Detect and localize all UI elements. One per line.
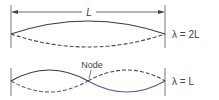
node-pointer bbox=[89, 70, 91, 79]
wavelength-label-top: λ = 2L bbox=[172, 29, 200, 40]
wave-solid-bottom-right bbox=[88, 81, 165, 92]
arrow-left-icon bbox=[11, 10, 18, 14]
bottom-wave-group: Node λ = L bbox=[11, 60, 194, 96]
wave-solid-top bbox=[11, 21, 165, 34]
wave-dashed-top bbox=[11, 34, 165, 47]
wave-dashed-bottom-right bbox=[88, 70, 165, 81]
arrow-right-icon bbox=[158, 10, 165, 14]
wavelength-label-bottom: λ = L bbox=[172, 76, 194, 87]
node-label: Node bbox=[81, 60, 103, 70]
dimension-label: L bbox=[86, 7, 92, 18]
standing-wave-diagram: L λ = 2L Node λ = L bbox=[0, 0, 219, 100]
wave-solid-bottom-left bbox=[11, 70, 88, 81]
wave-dashed-bottom-left bbox=[11, 81, 88, 92]
top-wave-group: L λ = 2L bbox=[11, 5, 200, 48]
